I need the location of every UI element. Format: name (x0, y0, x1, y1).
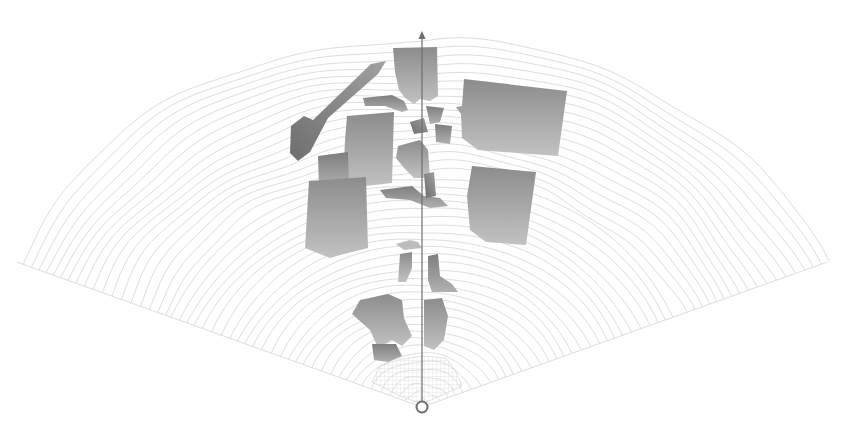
shape-left-block-2 (305, 177, 368, 258)
shape-center-2 (435, 124, 452, 144)
shape-top-center (393, 47, 438, 104)
fan-edge-line (17, 262, 422, 407)
shape-center-1 (426, 106, 444, 124)
shape-mid-2 (428, 254, 458, 292)
radial-visualization (0, 0, 858, 440)
shape-mid-3 (396, 240, 422, 250)
shape-center-6 (424, 172, 436, 198)
shape-mid-1 (398, 252, 412, 282)
shape-right-block-2 (467, 166, 536, 245)
shape-lower-3 (424, 298, 448, 350)
radial-fan-chart (0, 0, 858, 440)
axis-arrow-icon (419, 31, 426, 39)
origin-marker-icon[interactable] (417, 402, 428, 413)
fan-edge-line (422, 262, 827, 407)
shape-center-3 (410, 118, 428, 134)
shape-left-block-1 (344, 112, 394, 188)
shape-lower-1 (352, 294, 412, 348)
shape-center-5 (380, 186, 448, 208)
shape-lower-2 (372, 344, 402, 362)
shape-right-block-1 (456, 79, 567, 156)
